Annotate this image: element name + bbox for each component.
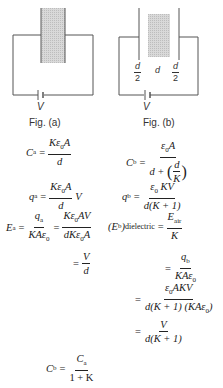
equation-Eb-dielectric: (Eb)dielectric = EairK bbox=[108, 211, 182, 241]
dielectric-slab-a bbox=[41, 8, 65, 63]
battery-label-b: V bbox=[143, 101, 150, 112]
gap-label-right: d2 bbox=[172, 62, 179, 83]
equation-Cb: Cb = ε0A d + (dK) bbox=[126, 140, 188, 184]
circuit-diagrams bbox=[0, 0, 223, 120]
equation-Cb-ratio: Cb = Ca1 + K bbox=[46, 353, 94, 383]
figure-b-circuit bbox=[119, 8, 198, 100]
battery-label-a: V bbox=[37, 101, 44, 112]
equation-Eb-final: = Vd(K + 1) bbox=[132, 319, 183, 344]
equation-Ca: Ca = Kε0Ad bbox=[26, 137, 71, 167]
equation-Eb-step3: = ε0AKVd(K + 1) (KAε0) bbox=[132, 282, 213, 317]
gap-label-left: d2 bbox=[134, 62, 141, 83]
caption-fig-b: Fig. (b) bbox=[143, 117, 175, 128]
figure-a-circuit bbox=[13, 8, 93, 100]
equation-Ea: Ea = qaKAε0 = Kε0AVdKε0A bbox=[6, 210, 91, 245]
equation-Eb-step2: = qbKAε0 bbox=[162, 251, 197, 286]
gap-label-mid: d bbox=[155, 65, 160, 75]
dielectric-slab-b bbox=[148, 14, 170, 57]
equation-qa: qa = Kε0Ad V bbox=[29, 181, 82, 211]
equation-Ea-simplified: = Vd bbox=[70, 251, 90, 276]
equation-qb: qb = ε0 KVd(K + 1) bbox=[122, 181, 182, 211]
caption-fig-a: Fig. (a) bbox=[29, 117, 61, 128]
